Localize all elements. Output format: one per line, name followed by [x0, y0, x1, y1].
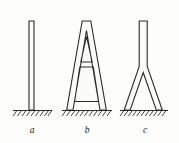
panel-label-b: b: [85, 125, 90, 135]
panel-label-c: c: [143, 125, 148, 135]
y-column-outline-c: [124, 21, 162, 110]
ground-hatching-b: [62, 111, 111, 117]
panel-c: c: [120, 21, 168, 135]
panel-label-a: a: [30, 125, 35, 135]
a-frame-outline-b: [67, 21, 107, 110]
panel-a: a: [13, 21, 52, 135]
panel-b: b: [62, 21, 112, 135]
ground-hatching-c: [120, 111, 166, 117]
structural-column-diagram: a b: [0, 0, 179, 143]
figure-container: a b: [0, 0, 179, 143]
column-shaft-a: [29, 21, 34, 110]
ground-hatching-a: [13, 111, 52, 117]
